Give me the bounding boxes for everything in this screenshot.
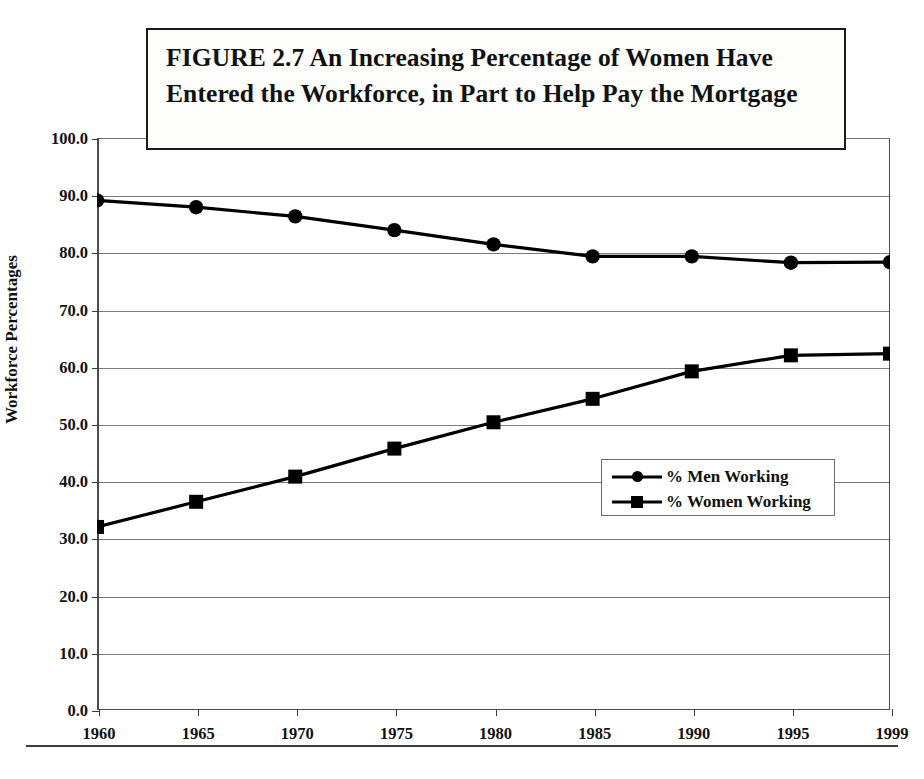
legend-item-women: % Women Working [610,489,834,514]
y-axis-tick [92,196,99,197]
x-axis-tick-label: 1995 [776,724,809,744]
legend-label-women: % Women Working [664,492,811,512]
x-axis-tick [396,709,397,716]
y-axis-tick [92,311,99,312]
x-axis-tick [99,709,100,716]
x-axis-tick [694,709,695,716]
x-axis-tick-label: 1960 [83,724,116,744]
x-axis-tick [198,709,199,716]
y-axis-tick-label: 80.0 [59,243,88,263]
figure-container: FIGURE 2.7 An Increasing Percentage of W… [0,0,924,779]
gridline [99,654,889,655]
figure-title-box: FIGURE 2.7 An Increasing Percentage of W… [146,28,846,150]
legend-item-men: % Men Working [610,464,834,489]
gridline [99,539,889,540]
gridline [99,311,889,312]
y-axis-tick [92,253,99,254]
y-axis-tick [92,654,99,655]
y-axis-tick [92,368,99,369]
gridline [99,196,889,197]
x-axis-tick [496,709,497,716]
x-axis-tick-label: 1985 [578,724,611,744]
y-axis-tick [92,482,99,483]
x-axis-tick-label: 1970 [281,724,314,744]
y-axis-tick [92,425,99,426]
y-axis-tick [92,139,99,140]
x-axis-tick-label: 1999 [876,724,909,744]
gridline [99,368,889,369]
x-axis-tick [297,709,298,716]
y-axis-tick-label: 0.0 [67,701,88,721]
x-axis-tick-label: 1980 [479,724,512,744]
y-axis-tick [92,539,99,540]
y-axis-tick-label: 10.0 [59,644,88,664]
page-footer-rule [26,745,898,747]
y-axis-tick [92,597,99,598]
x-axis-tick [793,709,794,716]
gridline [99,597,889,598]
figure-title-text: FIGURE 2.7 An Increasing Percentage of W… [166,40,830,112]
y-axis-tick-label: 20.0 [59,587,88,607]
chart-legend: % Men Working % Women Working [601,459,835,516]
plot-area: 0.010.020.030.040.050.060.070.080.090.01… [97,138,890,710]
y-axis-tick [92,711,99,712]
y-axis-tick-label: 50.0 [59,415,88,435]
legend-marker-square-icon [610,493,664,511]
gridline [99,253,889,254]
gridline [99,425,889,426]
y-axis-tick-label: 40.0 [59,472,88,492]
y-axis-tick-label: 30.0 [59,529,88,549]
x-axis-tick [892,709,893,716]
x-axis-tick [595,709,596,716]
y-axis-tick-label: 90.0 [59,186,88,206]
x-axis-tick-label: 1975 [380,724,413,744]
y-axis-tick-label: 100.0 [51,129,88,149]
y-axis-tick-label: 70.0 [59,301,88,321]
legend-label-men: % Men Working [664,467,788,487]
y-axis-tick-label: 60.0 [59,358,88,378]
y-axis-title: Workforce Percentages [2,255,22,424]
x-axis-tick-label: 1965 [182,724,215,744]
legend-marker-circle-icon [610,468,664,486]
x-axis-tick-label: 1990 [677,724,710,744]
